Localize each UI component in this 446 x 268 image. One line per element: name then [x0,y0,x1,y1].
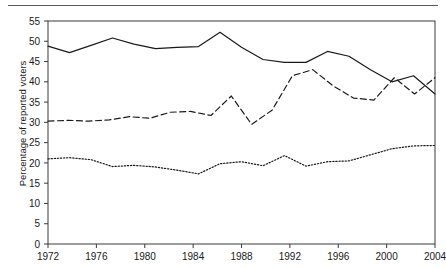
y-tick-label: 35 [29,97,41,108]
x-tick-label: 1976 [85,251,108,262]
x-tick-label: 2004 [424,251,446,262]
y-tick-label: 50 [29,36,41,47]
y-tick-label: 15 [29,178,41,189]
series-line-dotted-series [48,145,435,173]
y-tick-label: 0 [34,239,40,250]
line-chart-plot: 0510152025303540455055197219761980198419… [0,0,446,268]
y-tick-label: 20 [29,158,41,169]
x-tick-label: 1972 [37,251,60,262]
series-line-solid-series [48,32,435,94]
y-tick-label: 10 [29,198,41,209]
x-tick-label: 1980 [134,251,157,262]
plot-frame [48,21,435,244]
x-tick-label: 2000 [376,251,399,262]
x-tick-label: 1984 [182,251,205,262]
series-line-dashed-series [48,70,435,125]
y-tick-label: 45 [29,56,41,67]
y-tick-label: 5 [34,218,40,229]
y-tick-label: 25 [29,137,41,148]
y-tick-label: 40 [29,76,41,87]
x-tick-label: 1992 [279,251,302,262]
y-tick-label: 30 [29,117,41,128]
x-tick-label: 1996 [327,251,350,262]
y-tick-label: 55 [29,16,41,27]
chart-figure: Percentage of reported voters 0510152025… [0,0,446,268]
x-tick-label: 1988 [230,251,253,262]
